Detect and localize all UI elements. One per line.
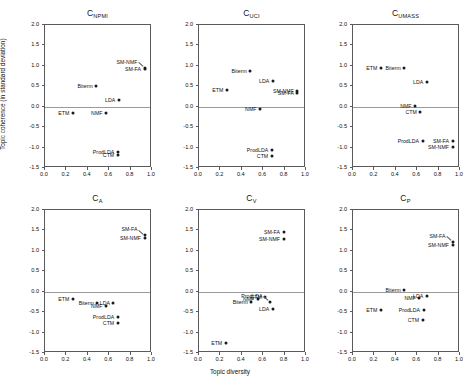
plot-area: SM-FASM-NMFCTMNMFBitermProdLDALDAETM — [198, 209, 305, 352]
x-tick-mark — [438, 167, 439, 170]
y-tick-mark — [196, 147, 199, 148]
data-point — [116, 322, 119, 325]
y-tick-label: 1.0 — [318, 247, 347, 253]
y-tick-mark — [196, 44, 199, 45]
y-tick-label: -0.5 — [10, 308, 39, 314]
data-point-label: Biterm — [386, 287, 401, 293]
x-tick-mark — [305, 167, 306, 170]
x-tick-mark — [284, 167, 285, 170]
x-tick-label: 0.2 — [216, 171, 224, 177]
x-tick-mark — [438, 352, 439, 355]
data-point — [270, 154, 273, 157]
x-tick-mark — [130, 167, 131, 170]
zero-reference-line — [45, 107, 150, 108]
data-point-label: NMF — [91, 303, 102, 309]
x-tick-label: 0.6 — [104, 171, 112, 177]
x-tick-label: 0.8 — [126, 356, 134, 362]
x-tick-label: 0.8 — [126, 171, 134, 177]
data-point — [143, 236, 146, 239]
panel-title-subscript: P — [407, 198, 411, 204]
y-tick-label: 2.0 — [318, 21, 347, 27]
y-tick-label: -1.0 — [10, 144, 39, 150]
panel-title-subscript: NPMI — [93, 13, 108, 19]
data-point — [451, 145, 454, 148]
y-tick-mark — [42, 106, 45, 107]
x-tick-label: 0.0 — [348, 356, 356, 362]
y-tick-mark — [350, 44, 353, 45]
x-tick-mark — [65, 352, 66, 355]
x-tick-label: 0.8 — [434, 356, 442, 362]
zero-reference-line — [45, 292, 150, 293]
plot-area: ETMBitermLDANMFCTMProdLDASM-FASM-NMF — [352, 24, 459, 167]
data-point — [104, 111, 107, 114]
x-tick-label: 0.2 — [370, 356, 378, 362]
x-tick-mark — [151, 352, 152, 355]
x-tick-label: 0.0 — [40, 171, 48, 177]
y-tick-label: 0.0 — [10, 288, 39, 294]
data-point — [258, 107, 261, 110]
zero-reference-line — [353, 292, 458, 293]
panel-title: CNPMI — [44, 8, 151, 18]
panel-title-base: C — [246, 193, 252, 203]
y-tick-label: -0.5 — [164, 308, 193, 314]
y-tick-label: 2.0 — [318, 206, 347, 212]
data-point — [425, 81, 428, 84]
y-tick-mark — [42, 250, 45, 251]
data-point — [112, 302, 115, 305]
data-point-label: SM-NMF — [428, 242, 449, 248]
panel-title-subscript: V — [253, 198, 257, 204]
y-tick-mark — [196, 65, 199, 66]
data-point — [296, 92, 299, 95]
x-tick-mark — [284, 352, 285, 355]
y-tick-label: 0.5 — [318, 82, 347, 88]
x-tick-mark — [130, 352, 131, 355]
x-tick-label: 0.0 — [194, 356, 202, 362]
y-tick-mark — [42, 229, 45, 230]
y-tick-label: 0.0 — [164, 103, 193, 109]
y-tick-label: -1.5 — [164, 349, 193, 355]
x-tick-mark — [151, 167, 152, 170]
data-point-label: CTM — [408, 317, 419, 323]
data-point-label: Biterm — [78, 83, 93, 89]
data-point-label: SM-FA — [121, 226, 137, 232]
y-tick-label: -1.5 — [10, 349, 39, 355]
y-tick-label: 0.0 — [10, 103, 39, 109]
data-point — [271, 307, 274, 310]
y-tick-mark — [42, 291, 45, 292]
data-point — [268, 300, 271, 303]
y-tick-mark — [42, 24, 45, 25]
x-tick-label: 0.8 — [280, 356, 288, 362]
y-tick-label: -0.5 — [318, 123, 347, 129]
y-tick-mark — [350, 106, 353, 107]
y-tick-mark — [42, 332, 45, 333]
y-tick-label: 0.0 — [164, 288, 193, 294]
panel-c-npmi: CNPMISM-NMFSM-FABitermLDAETMNMFProdLDACT… — [10, 8, 153, 185]
x-tick-mark — [44, 167, 45, 170]
panel-c-a: CASM-FASM-NMFETMBitermLDANMFProdLDACTM2.… — [10, 193, 153, 370]
data-point — [422, 309, 425, 312]
y-tick-mark — [42, 85, 45, 86]
data-point-label: Biterm — [232, 68, 247, 74]
panel-title-subscript: UMASS — [398, 13, 419, 19]
y-tick-label: -0.5 — [10, 123, 39, 129]
data-point-label: Biterm — [233, 299, 248, 305]
data-point-label: SM-NMF — [428, 144, 449, 150]
data-point-label: ProdLDA — [93, 314, 114, 320]
plot-area: SM-FASM-NMFETMBitermLDANMFProdLDACTM — [44, 209, 151, 352]
y-tick-label: 1.0 — [164, 247, 193, 253]
data-point — [104, 305, 107, 308]
y-tick-mark — [350, 126, 353, 127]
y-tick-label: -1.5 — [318, 349, 347, 355]
y-tick-label: 1.5 — [164, 41, 193, 47]
x-tick-label: 1.0 — [301, 171, 309, 177]
x-tick-mark — [373, 352, 374, 355]
x-tick-mark — [241, 167, 242, 170]
x-tick-mark — [241, 352, 242, 355]
y-tick-label: -1.0 — [318, 144, 347, 150]
y-tick-mark — [196, 24, 199, 25]
data-point-label: ProdLDA — [398, 138, 419, 144]
data-point — [379, 66, 382, 69]
data-point-label: SM-FA — [278, 90, 294, 96]
y-tick-label: -1.0 — [318, 329, 347, 335]
x-tick-mark — [352, 352, 353, 355]
